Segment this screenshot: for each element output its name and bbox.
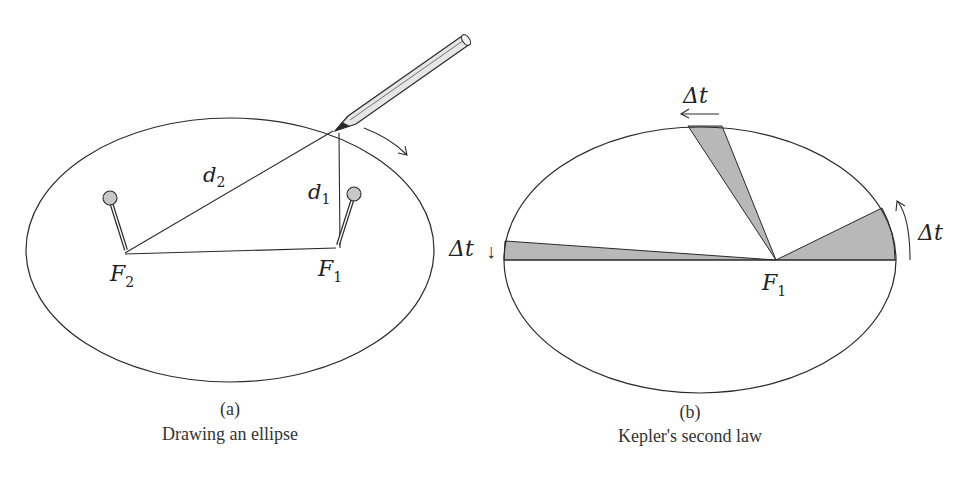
sector-top: [688, 126, 776, 260]
panel-a-caption: Drawing an ellipse: [162, 424, 298, 444]
label-f1: F1: [317, 256, 342, 285]
arrow-up-curved-icon: [896, 201, 910, 260]
label-d1: d1: [308, 180, 330, 207]
pin-f2-icon: [103, 191, 126, 250]
arrow-left-icon: [681, 109, 719, 118]
pencil-icon: [335, 33, 472, 131]
label-dt-left: Δt: [448, 236, 474, 261]
arrow-down-icon: ↓: [486, 240, 496, 262]
string-d1: [339, 133, 340, 248]
figure-canvas: d2 d1 F2 F1 (a) Drawing an ellipse Δt Δt…: [0, 0, 973, 478]
panel-a-label: (a): [220, 399, 240, 420]
string-d2: [125, 131, 333, 253]
label-dt-right: Δt: [917, 220, 943, 245]
pin-f1-icon: [338, 187, 361, 245]
label-d2: d2: [203, 163, 225, 190]
panel-a-drawing-ellipse: d2 d1 F2 F1 (a) Drawing an ellipse: [26, 33, 472, 444]
string-base: [125, 248, 336, 254]
label-f2: F2: [109, 261, 134, 290]
sector-left: [504, 241, 776, 260]
direction-arrow-icon: [364, 128, 407, 155]
sector-right: [776, 208, 895, 260]
ellipse-a: [26, 118, 434, 382]
panel-b-caption: Kepler's second law: [618, 426, 762, 446]
panel-b-label: (b): [680, 402, 701, 423]
label-dt-top: Δt: [682, 83, 708, 108]
label-f1-b: F1: [761, 270, 786, 299]
panel-b-keplers-second-law: Δt Δt Δt ↓ F1 (b) Kepler's second law: [448, 83, 943, 446]
